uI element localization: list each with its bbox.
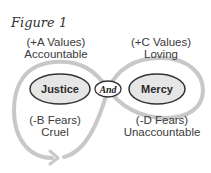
bottom-right-label-line1: (-D Fears)	[136, 114, 189, 126]
top-left-label-line1: (+A Values)	[27, 36, 86, 48]
mercy-node: Mercy	[129, 74, 185, 104]
bottom-right-label-line2: Unaccountable	[124, 126, 201, 138]
top-right-label-line1: (+C Values)	[131, 36, 191, 48]
infinity-diagram: Figure 1 (+A Values) Accountable (+C Val…	[0, 0, 211, 173]
justice-node: Justice	[30, 74, 90, 104]
figure-canvas: Figure 1 (+A Values) Accountable (+C Val…	[0, 0, 211, 173]
bottom-left-label-line2: Cruel	[41, 126, 68, 138]
and-label: And	[98, 84, 117, 95]
top-right-label-line2: Loving	[144, 48, 178, 60]
bottom-left-label-line1: (-B Fears)	[29, 114, 81, 126]
figure-caption: Figure 1	[10, 15, 67, 30]
infinity-loop-icon	[14, 58, 203, 158]
and-connector: And	[95, 81, 121, 97]
justice-label: Justice	[41, 83, 79, 95]
mercy-label: Mercy	[141, 83, 174, 95]
top-left-label-line2: Accountable	[24, 48, 87, 60]
